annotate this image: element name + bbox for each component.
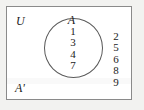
complement-members: 25689 bbox=[107, 31, 125, 88]
venn-diagram: U A A' 1347 25689 bbox=[0, 0, 144, 110]
set-a-members: 1347 bbox=[62, 26, 84, 72]
complement-set-label: A' bbox=[15, 82, 25, 94]
set-member: 7 bbox=[70, 60, 76, 71]
set-member: 9 bbox=[113, 77, 119, 88]
set-member: 8 bbox=[113, 65, 119, 76]
